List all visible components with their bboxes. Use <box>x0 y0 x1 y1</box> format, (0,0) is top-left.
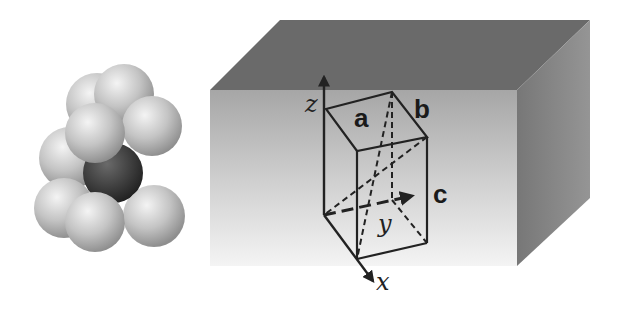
atom-sphere <box>124 186 184 246</box>
axis-label-x: x <box>376 268 390 296</box>
atom-sphere <box>65 192 125 252</box>
atom-sphere <box>122 96 182 156</box>
crystal-figure: a b c z y x <box>0 0 620 313</box>
lattice-label-a: a <box>354 103 369 133</box>
atom-sphere <box>65 103 125 163</box>
lattice-label-b: b <box>414 94 430 124</box>
atom-cluster <box>34 64 185 252</box>
axis-label-y: y <box>377 210 392 238</box>
axis-label-z: z <box>304 90 318 118</box>
lattice-label-c: c <box>433 179 447 209</box>
